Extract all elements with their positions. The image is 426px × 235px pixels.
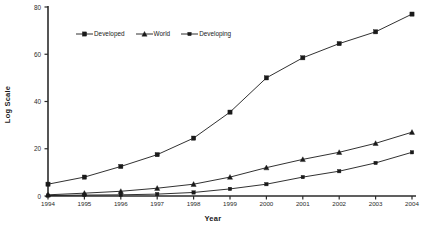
- y-axis-title: Log Scale: [3, 70, 12, 140]
- x-axis-tick-label: 2000: [249, 200, 283, 208]
- data-point-marker-square: [119, 193, 122, 196]
- x-axis-tick-label: 1999: [213, 200, 247, 208]
- data-point-marker-square: [46, 182, 50, 186]
- data-point-marker-square: [156, 192, 159, 195]
- y-axis-tick-label: 20: [19, 145, 41, 152]
- data-point-marker-square: [338, 169, 341, 172]
- legend-item-world: World: [136, 30, 171, 38]
- data-point-marker-square: [83, 193, 86, 196]
- x-axis-tick-label: 1996: [104, 200, 138, 208]
- data-point-marker-square: [119, 164, 123, 168]
- y-axis-tick-label: 0: [19, 193, 41, 200]
- data-point-marker-square: [228, 187, 231, 190]
- data-point-marker-square: [188, 32, 191, 35]
- series-layer: [45, 12, 414, 197]
- x-axis-tick-label: 1997: [140, 200, 174, 208]
- data-point-marker-square: [228, 110, 232, 114]
- data-point-marker-square: [301, 175, 304, 178]
- data-point-marker-square: [192, 191, 195, 194]
- data-point-marker-square: [374, 161, 377, 164]
- x-axis-title: Year: [0, 214, 426, 223]
- data-point-marker-triangle: [409, 130, 414, 135]
- chart-container: Log Scale 020406080 19941995199619971998…: [0, 0, 426, 235]
- data-point-marker-square: [410, 151, 413, 154]
- data-point-marker-square: [265, 182, 268, 185]
- data-point-marker-square: [82, 175, 86, 179]
- data-point-marker-square: [410, 12, 414, 16]
- data-point-marker-square: [374, 30, 378, 34]
- legend-label: Developing: [199, 30, 231, 38]
- x-axis-tick-label: 2002: [322, 200, 356, 208]
- x-axis-tick-label: 1995: [67, 200, 101, 208]
- y-axis-tick-label: 40: [19, 98, 41, 105]
- y-axis-tick-label: 80: [19, 4, 41, 11]
- chart-series-developing: [46, 151, 413, 198]
- data-point-marker-square: [301, 56, 305, 60]
- x-axis-tick-label: 1998: [177, 200, 211, 208]
- data-point-marker-square: [155, 153, 159, 157]
- series-line: [48, 14, 412, 184]
- x-axis-tick-label: 2004: [395, 200, 426, 208]
- data-point-marker-square: [192, 136, 196, 140]
- legend-label: Developed: [94, 30, 125, 38]
- data-point-marker-square: [46, 194, 49, 197]
- x-axis-tick-label: 2003: [359, 200, 393, 208]
- x-axis-tick-label: 2001: [286, 200, 320, 208]
- x-axis-tick-label: 1994: [31, 200, 65, 208]
- legend-marker-icon: [136, 30, 153, 38]
- chart-series-world: [45, 130, 414, 197]
- legend-item-developed: Developed: [76, 30, 125, 38]
- legend-item-developing: Developing: [181, 30, 231, 38]
- chart-legend: DevelopedWorldDeveloping: [76, 28, 231, 39]
- series-line: [48, 132, 412, 195]
- legend-label: World: [154, 30, 171, 38]
- data-point-marker-square: [337, 42, 341, 46]
- y-axis-tick-label: 60: [19, 51, 41, 58]
- legend-marker-icon: [181, 30, 198, 38]
- data-point-marker-square: [264, 76, 268, 80]
- y-axis-title-wrapper: Log Scale: [0, 74, 14, 144]
- data-point-marker-square: [82, 31, 86, 35]
- legend-marker-icon: [76, 30, 93, 38]
